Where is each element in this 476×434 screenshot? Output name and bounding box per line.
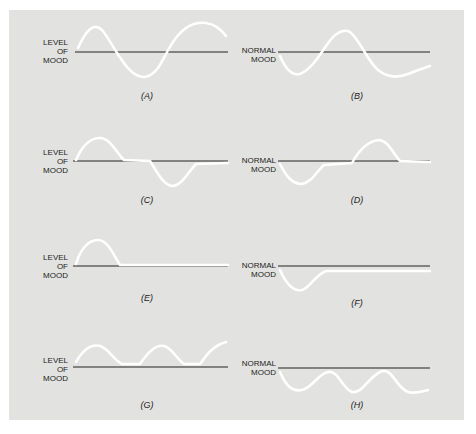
curve-b	[280, 31, 430, 77]
caption-a: (A)	[132, 91, 162, 101]
ylabel-a: LEVELOFMOOD	[30, 38, 68, 65]
baselines	[73, 52, 430, 368]
curve-c	[76, 138, 228, 186]
curve-e	[76, 240, 228, 265]
curve-f	[280, 270, 430, 290]
ylabel-c: LEVELOFMOOD	[30, 148, 68, 175]
caption-f: (F)	[342, 298, 372, 308]
caption-c: (C)	[132, 195, 162, 205]
caption-e: (E)	[132, 293, 162, 303]
ylabel-f: NORMALMOOD	[236, 261, 276, 279]
curve-g	[76, 342, 226, 364]
caption-g: (G)	[132, 400, 162, 410]
curve-d	[280, 140, 430, 184]
curve-a	[78, 23, 226, 77]
ylabel-h: NORMALMOOD	[236, 359, 276, 377]
ylabel-d: NORMALMOOD	[236, 156, 276, 174]
curves	[76, 23, 430, 393]
caption-b: (B)	[342, 91, 372, 101]
ylabel-g: LEVELOFMOOD	[30, 356, 68, 383]
caption-h: (H)	[342, 400, 372, 410]
ylabel-b: NORMALMOOD	[236, 46, 276, 64]
curve-h	[280, 371, 428, 393]
caption-d: (D)	[342, 195, 372, 205]
ylabel-e: LEVELOFMOOD	[30, 253, 68, 280]
